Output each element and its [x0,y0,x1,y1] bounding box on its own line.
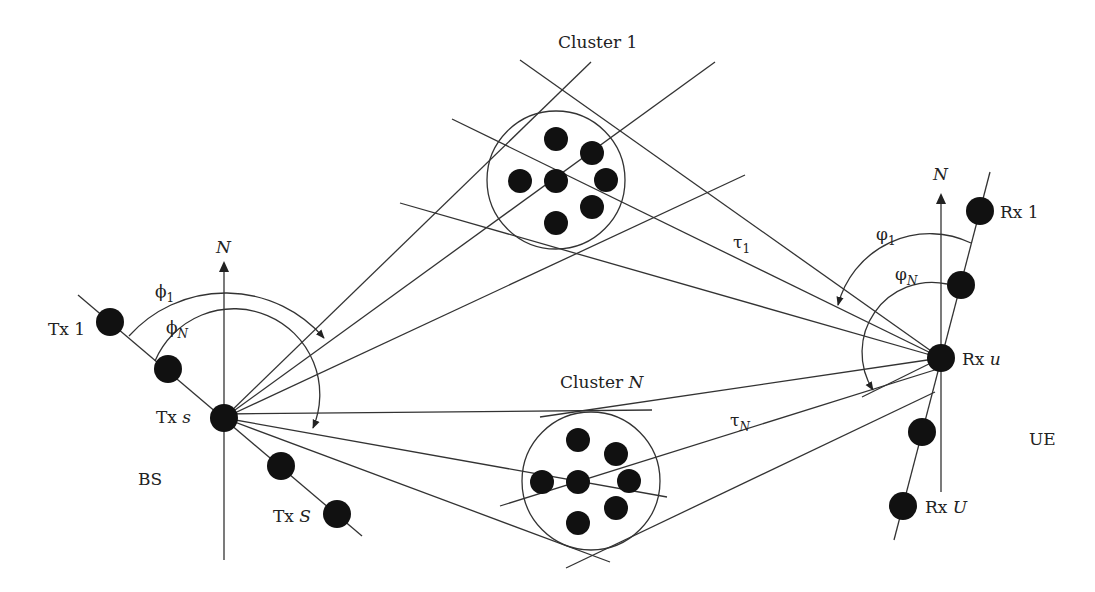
cluster-n-scatterers [530,428,641,535]
mimo-cluster-channel-diagram: Cluster 1 Cluster N N N BS UE Tx 1 Tx s … [0,0,1095,592]
ue-north-axis [936,193,946,492]
rx-2-antenna [947,271,975,299]
cluster-n-label: Cluster N [560,372,645,392]
tx-1-label: Tx 1 [48,319,85,339]
rx-u-antenna [927,344,955,372]
rx-u-label: Rx u [962,349,1001,369]
ue-north-label: N [932,164,949,184]
varphi-n-arc [862,282,947,390]
tx-s-label: Tx s [156,407,191,427]
varphi-n-label: φN [895,264,918,288]
rx-4-antenna [908,418,936,446]
rx-U-antenna [889,492,917,520]
tx-2-antenna [154,355,182,383]
bs-north-label: N [215,237,232,257]
tx-1-antenna [96,308,124,336]
cluster-1-scatterers [508,127,618,235]
tx-S-label: Tx S [273,506,311,526]
rx-1-antenna [966,197,994,225]
rx-U-label: Rx U [925,497,968,517]
ue-label: UE [1029,429,1056,449]
tx-s-antenna [210,404,238,432]
tx-4-antenna [267,452,295,480]
cluster-1-paths [224,60,941,418]
tx-S-antenna [323,500,351,528]
phi-1-label: ϕ1 [155,281,174,305]
bs-label: BS [138,469,162,489]
cluster-1-label: Cluster 1 [558,32,637,52]
tau-n-label: τN [730,410,750,434]
tau-1-label: τ1 [733,232,750,256]
rx-1-label: Rx 1 [1000,202,1039,222]
